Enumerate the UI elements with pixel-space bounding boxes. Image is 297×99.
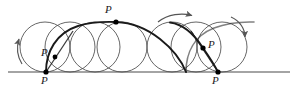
label-P-lower-left: P xyxy=(41,47,48,58)
cycloid-curve-arch-1 xyxy=(46,22,186,72)
marker-P-apex xyxy=(113,19,118,24)
marker-P-lower-left xyxy=(53,55,58,60)
rotation-arrow-left xyxy=(18,39,22,64)
label-P-right-mid: P xyxy=(208,39,215,50)
label-P-cusp-left: P xyxy=(41,75,48,86)
label-P-cusp-right: P xyxy=(212,75,219,86)
label-P-apex: P xyxy=(105,4,112,15)
translation-arrow-top xyxy=(158,14,192,22)
cycloid-figure: P P P P P xyxy=(0,0,297,99)
marker-P-right-mid xyxy=(200,45,205,50)
rolling-circle xyxy=(147,22,197,72)
rolling-circle xyxy=(97,22,147,72)
